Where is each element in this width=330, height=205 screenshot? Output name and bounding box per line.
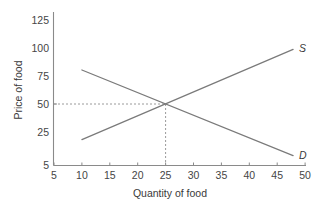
chart-canvas: 125 100 75 50 25 5 5 10 15 20 25 30 35 4… — [0, 0, 330, 205]
y-axis-title: Price of food — [12, 60, 24, 119]
y-tick-label-50: 50 — [37, 98, 49, 110]
y-tick-label-125: 125 — [31, 14, 49, 26]
x-tick-label-25: 25 — [160, 169, 172, 181]
x-tick-label-20: 20 — [132, 169, 144, 181]
demand-curve-label: D — [299, 149, 307, 161]
x-tick-label-45: 45 — [271, 169, 283, 181]
x-tick-label-15: 15 — [104, 169, 116, 181]
y-tick-label-100: 100 — [31, 42, 49, 54]
y-tick-label-25: 25 — [37, 126, 49, 138]
x-tick-label-50: 50 — [299, 169, 311, 181]
x-tick-label-30: 30 — [188, 169, 200, 181]
y-tick-label-75: 75 — [37, 70, 49, 82]
x-tick-label-10: 10 — [76, 169, 88, 181]
supply-curve — [82, 49, 293, 139]
x-tick-label-40: 40 — [243, 169, 255, 181]
supply-curve-label: S — [299, 42, 306, 54]
y-tick-label-5: 5 — [43, 159, 49, 171]
x-axis-title: Quantity of food — [133, 187, 207, 199]
x-tick-label-5: 5 — [51, 169, 57, 181]
supply-demand-chart: 125 100 75 50 25 5 5 10 15 20 25 30 35 4… — [0, 0, 330, 205]
x-tick-label-35: 35 — [216, 169, 228, 181]
demand-curve — [82, 70, 293, 156]
